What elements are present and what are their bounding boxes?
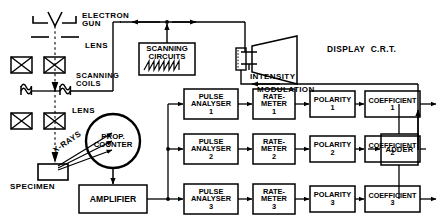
sawtooth-waveform bbox=[144, 61, 179, 70]
specimen-block bbox=[38, 164, 68, 180]
pol2-index: 2 bbox=[330, 149, 334, 157]
pa2-name: PULSE ANALYSER bbox=[191, 138, 231, 153]
pa2-index: 2 bbox=[209, 153, 213, 161]
label-lens-top: LENS bbox=[85, 42, 108, 50]
rm2-name: RATE- METER bbox=[261, 138, 287, 153]
electron-gun-symbol bbox=[33, 12, 76, 26]
text-coefficient-3: COEFFICIENT 3 bbox=[365, 186, 420, 212]
label-lens-bottom: LENS bbox=[72, 107, 95, 115]
pa1-index: 1 bbox=[209, 108, 213, 116]
text-polarity-3: POLARITY 3 bbox=[310, 186, 355, 212]
text-polarity-2: POLARITY 2 bbox=[310, 136, 355, 162]
diagram-canvas: ELECTRON GUN LENS SCANNING COILS LENS X-… bbox=[0, 0, 441, 220]
text-rate-meter-3: RATE- METER 3 bbox=[253, 184, 295, 214]
text-pulse-analyser-3: PULSE ANALYSER 3 bbox=[184, 184, 238, 214]
label-intensity: INTENSITY bbox=[250, 73, 295, 81]
rm3-index: 3 bbox=[272, 203, 276, 211]
label-electron-gun: ELECTRON GUN bbox=[82, 12, 129, 29]
prop-counter-text: PROP. COUNTER bbox=[94, 133, 133, 149]
pol3-index: 3 bbox=[330, 199, 334, 207]
amplifier-text: AMPLIFIER bbox=[90, 195, 136, 204]
label-specimen: SPECIMEN bbox=[10, 183, 55, 191]
label-amplifier: AMPLIFIER bbox=[79, 185, 147, 213]
text-pulse-analyser-2: PULSE ANALYSER 2 bbox=[184, 134, 238, 164]
rm3-name: RATE- METER bbox=[261, 188, 287, 203]
text-polarity-1: POLARITY 1 bbox=[310, 91, 355, 117]
rm1-index: 1 bbox=[272, 108, 276, 116]
lens-bottom-symbol bbox=[11, 113, 65, 129]
coef1-index: 1 bbox=[391, 104, 395, 111]
pa3-index: 3 bbox=[209, 203, 213, 211]
coef2-index: 2 bbox=[391, 149, 395, 156]
pa3-name: PULSE ANALYSER bbox=[191, 188, 231, 203]
label-scanning-circuits: SCANNING CIRCUITS bbox=[139, 44, 195, 62]
text-rate-meter-2: RATE- METER 2 bbox=[253, 134, 295, 164]
label-display-crt: DISPLAY C.R.T. bbox=[327, 45, 396, 54]
text-coefficient-1: COEFFICIENT 1 bbox=[365, 91, 420, 117]
pol1-index: 1 bbox=[330, 104, 334, 112]
text-pulse-analyser-1: PULSE ANALYSER 1 bbox=[184, 89, 238, 119]
rm2-index: 2 bbox=[272, 153, 276, 161]
text-rate-meter-1: RATE- METER 1 bbox=[253, 89, 295, 119]
coef3-index: 3 bbox=[391, 199, 395, 206]
lens-top-symbol bbox=[11, 57, 65, 73]
pa1-name: PULSE ANALYSER bbox=[191, 93, 231, 108]
scanning-coils-symbol bbox=[21, 84, 70, 95]
rm1-name: RATE- METER bbox=[261, 93, 287, 108]
scanning-circuits-text: SCANNING CIRCUITS bbox=[146, 45, 188, 61]
label-scanning-coils: SCANNING COILS bbox=[76, 72, 119, 88]
text-coefficient-2: COEFFICIENT 2 bbox=[365, 136, 420, 162]
label-prop-counter: PROP. COUNTER bbox=[88, 127, 138, 155]
